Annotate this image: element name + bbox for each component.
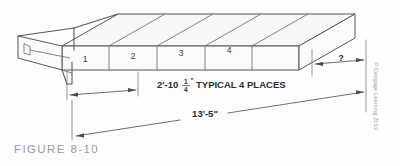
isometric-deck-drawing: 2'-10 1 4 " TYPICAL 4 PLACES ? 13'-5"	[0, 0, 400, 166]
typical-places-note: TYPICAL 4 PLACES	[196, 79, 286, 90]
panel-label-2: 2	[131, 51, 136, 61]
unknown-dimension-label: ?	[338, 53, 344, 63]
figure-caption: FIGURE 8-10	[14, 143, 99, 155]
unknown-arrow-right	[356, 58, 364, 62]
overall-arrow-right	[356, 90, 364, 94]
typical-arrow-left	[70, 93, 78, 97]
typical-fraction-denominator: 4	[184, 86, 188, 93]
unknown-arrow-left	[315, 62, 323, 66]
overall-dimension-group: 13'-5"	[72, 90, 364, 140]
copyright-credit: © Cengage Learning 2013	[373, 62, 379, 152]
typical-dimension-line	[70, 90, 136, 95]
panel-label-3: 3	[179, 48, 184, 58]
left-end-top-edge	[18, 28, 74, 36]
typical-dimension-whole: 2'-10	[157, 79, 178, 90]
panel-label-1: 1	[83, 54, 88, 64]
overall-dimension-line-right	[228, 92, 364, 113]
typical-arrow-right	[128, 88, 136, 92]
typical-inch-mark: "	[191, 77, 194, 84]
typical-fraction-numerator: 1	[184, 78, 188, 85]
panel-label-4: 4	[227, 45, 232, 55]
figure-container: 2'-10 1 4 " TYPICAL 4 PLACES ? 13'-5"	[0, 0, 400, 166]
overall-arrow-left	[76, 133, 84, 137]
overall-dimension-label: 13'-5"	[192, 108, 218, 119]
overall-dimension-line-left	[76, 120, 180, 136]
typical-dimension-group: 2'-10 1 4 " TYPICAL 4 PLACES	[67, 72, 286, 100]
